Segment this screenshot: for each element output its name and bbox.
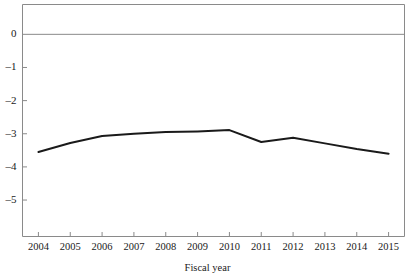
x-axis-title: Fiscal year <box>0 262 415 274</box>
x-axis-labels: 2004200520062007200820092010201120122013… <box>0 0 415 280</box>
x-tick-label: 2008 <box>149 241 183 252</box>
x-tick-label: 2005 <box>53 241 87 252</box>
x-tick-label: 2010 <box>212 241 246 252</box>
x-tick-label: 2007 <box>117 241 151 252</box>
x-tick-label: 2006 <box>85 241 119 252</box>
line-chart-figure: 0–1–2–3–4–5 2004200520062007200820092010… <box>0 0 415 280</box>
x-tick-label: 2009 <box>181 241 215 252</box>
x-tick-label: 2011 <box>244 241 278 252</box>
x-tick-label: 2013 <box>308 241 342 252</box>
x-tick-label: 2015 <box>372 241 406 252</box>
x-tick-label: 2014 <box>340 241 374 252</box>
x-tick-label: 2004 <box>21 241 55 252</box>
x-tick-label: 2012 <box>276 241 310 252</box>
